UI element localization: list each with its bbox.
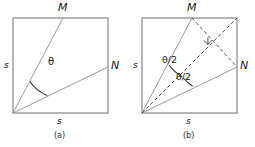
panel-b: M N s s θ/2 θ/2 (b) <box>127 0 254 147</box>
panel-a: M N s s θ (a) <box>0 0 127 147</box>
caption-panel-b: (b) <box>183 132 194 140</box>
ray-to-m-a <box>13 18 63 113</box>
square-outline-a <box>13 18 108 113</box>
panel-a-drawing <box>0 0 127 147</box>
label-side-bottom-a: s <box>57 117 62 126</box>
figure-container: M N s s θ (a) M N s s <box>0 0 255 147</box>
caption-panel-a: (a) <box>54 132 65 140</box>
ray-to-m-b <box>142 18 192 113</box>
label-vertex-m-b: M <box>187 2 197 13</box>
label-angle-lower-b: θ/2 <box>176 72 191 82</box>
ray-to-n-a <box>13 67 108 113</box>
label-side-left-b: s <box>133 61 138 70</box>
dashed-bisector-b <box>142 18 237 113</box>
label-angle-theta-a: θ <box>48 57 54 67</box>
label-vertex-n-b: N <box>240 60 248 71</box>
label-angle-upper-b: θ/2 <box>162 55 177 65</box>
label-vertex-n-a: N <box>111 60 119 71</box>
label-vertex-m-a: M <box>58 2 68 13</box>
angle-arc-theta-a <box>30 82 47 96</box>
label-side-bottom-b: s <box>186 117 191 126</box>
dashed-segment-mn-b <box>192 18 237 67</box>
label-side-left-a: s <box>4 61 9 70</box>
